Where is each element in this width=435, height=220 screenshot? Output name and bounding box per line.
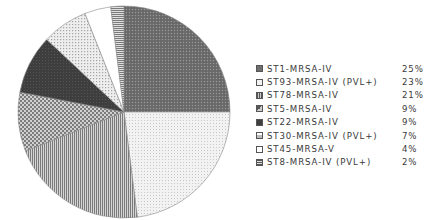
pattern-swatch-icon <box>256 92 263 99</box>
legend-label: ST78-MRSA-IV <box>267 90 402 100</box>
legend-value: 23% <box>402 77 432 87</box>
pattern-swatch-icon <box>256 119 263 126</box>
pattern-swatch-icon <box>256 159 263 166</box>
legend-value: 2% <box>402 157 432 167</box>
pattern-swatch-icon <box>256 105 263 112</box>
pattern-swatch-icon <box>256 79 263 86</box>
legend-item-st22: ST22-MRSA-IV 9% <box>256 116 432 129</box>
legend-label: ST5-MRSA-IV <box>267 104 402 114</box>
legend-value: 7% <box>402 131 432 141</box>
legend-label: ST1-MRSA-IV <box>267 64 402 74</box>
pattern-swatch-icon <box>256 65 263 72</box>
legend-value: 25% <box>402 64 432 74</box>
legend-item-st78: ST78-MRSA-IV 21% <box>256 89 432 102</box>
legend-value: 9% <box>402 117 432 127</box>
legend-label: ST8-MRSA-IV (PVL+) <box>267 157 402 167</box>
legend-item-st30: ST30-MRSA-IV (PVL+) 7% <box>256 129 432 142</box>
pie-slice <box>124 6 230 112</box>
legend-value: 21% <box>402 90 432 100</box>
chart-legend: ST1-MRSA-IV 25% ST93-MRSA-IV (PVL+) 23% … <box>256 62 432 169</box>
legend-label: ST93-MRSA-IV (PVL+) <box>267 77 402 87</box>
pie-chart <box>0 0 250 220</box>
legend-item-st45: ST45-MRSA-V 4% <box>256 142 432 155</box>
legend-item-st8: ST8-MRSA-IV (PVL+) 2% <box>256 156 432 169</box>
legend-label: ST22-MRSA-IV <box>267 117 402 127</box>
legend-label: ST45-MRSA-V <box>267 144 402 154</box>
legend-item-st5: ST5-MRSA-IV 9% <box>256 102 432 115</box>
pie-slice <box>124 112 230 217</box>
pattern-swatch-icon <box>256 146 263 153</box>
legend-value: 4% <box>402 144 432 154</box>
legend-item-st1: ST1-MRSA-IV 25% <box>256 62 432 75</box>
pattern-swatch-icon <box>256 132 263 139</box>
legend-item-st93: ST93-MRSA-IV (PVL+) 23% <box>256 75 432 88</box>
legend-value: 9% <box>402 104 432 114</box>
legend-label: ST30-MRSA-IV (PVL+) <box>267 131 402 141</box>
